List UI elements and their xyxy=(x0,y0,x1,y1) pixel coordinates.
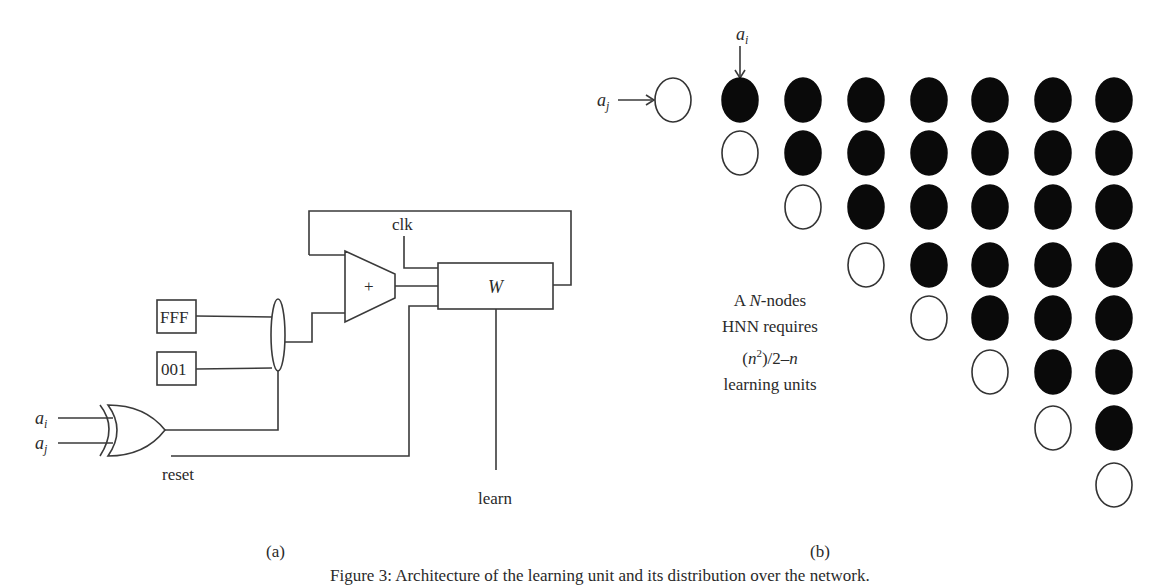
learning-unit-node xyxy=(1035,350,1071,394)
panel-a-sublabel: (a) xyxy=(266,542,285,562)
learning-unit-node xyxy=(972,296,1008,340)
neuron-node xyxy=(655,78,691,122)
const-fff-label: FFF xyxy=(160,308,188,327)
note-line-1: A N-nodes xyxy=(700,288,840,314)
learning-unit-node xyxy=(785,78,821,122)
neuron-node xyxy=(972,350,1008,394)
neuron-node xyxy=(1035,406,1071,450)
const-001-label: 001 xyxy=(161,360,187,379)
note-line-2: HNN requires xyxy=(700,314,840,340)
learning-unit-node xyxy=(1035,78,1071,122)
mux-to-adder-wire xyxy=(285,313,345,342)
clk-label: clk xyxy=(392,215,413,234)
fff-to-mux-wire xyxy=(196,316,272,317)
neuron-node xyxy=(848,243,884,287)
col-input-ai-label: ai xyxy=(736,24,748,47)
xor-input-ai-label: ai xyxy=(35,408,47,431)
learning-unit-node xyxy=(1035,243,1071,287)
panel-a-circuit: + W clk FFF 001 ai aj reset l xyxy=(35,211,571,508)
learning-unit-node xyxy=(911,131,947,175)
learning-unit-node xyxy=(972,243,1008,287)
learning-unit-node xyxy=(1035,131,1071,175)
learning-unit-node xyxy=(1035,185,1071,229)
note-line-4: learning units xyxy=(700,372,840,398)
learning-unit-node xyxy=(972,185,1008,229)
learn-label: learn xyxy=(478,489,512,508)
learning-unit-node xyxy=(848,131,884,175)
learning-unit-node xyxy=(1096,406,1132,450)
learning-unit-node xyxy=(1035,296,1071,340)
learning-unit-node xyxy=(1096,296,1132,340)
adder-plus-label: + xyxy=(364,277,374,296)
learning-unit-node xyxy=(1096,350,1132,394)
learning-unit-node xyxy=(911,185,947,229)
w-register-label: W xyxy=(488,277,505,297)
panel-b-sublabel: (b) xyxy=(810,542,830,562)
learning-unit-node xyxy=(1096,243,1132,287)
learning-unit-node xyxy=(911,78,947,122)
learning-unit-node xyxy=(1096,131,1132,175)
learning-unit-node xyxy=(1096,78,1132,122)
xor-input-aj-label: aj xyxy=(35,433,48,456)
learning-unit-node xyxy=(1096,185,1132,229)
learning-unit-node xyxy=(972,131,1008,175)
row-input-aj-label: aj xyxy=(597,90,610,113)
reset-wire xyxy=(171,306,438,456)
neuron-node xyxy=(722,131,758,175)
hnn-requirement-note: A N-nodes HNN requires (n2)/2–n learning… xyxy=(700,288,840,398)
clk-wire xyxy=(404,236,438,268)
learning-unit-node xyxy=(972,78,1008,122)
figure-canvas: + W clk FFF 001 ai aj reset l xyxy=(0,0,1163,588)
learning-unit-node xyxy=(722,78,758,122)
xor-gate-back-arc xyxy=(100,405,109,456)
neuron-node xyxy=(911,296,947,340)
learning-unit-node xyxy=(848,185,884,229)
neuron-node xyxy=(1096,463,1132,507)
xor-gate xyxy=(108,405,165,456)
learning-unit-node xyxy=(785,131,821,175)
learning-unit-node xyxy=(848,78,884,122)
note-line-3-formula: (n2)/2–n xyxy=(700,340,840,372)
001-to-mux-wire xyxy=(196,368,272,369)
mux-selector xyxy=(271,299,285,371)
reset-label: reset xyxy=(162,465,194,484)
neuron-node xyxy=(785,185,821,229)
figure-caption: Figure 3: Architecture of the learning u… xyxy=(330,566,870,586)
learning-unit-node xyxy=(911,243,947,287)
panel-b-grid: aj ai xyxy=(597,24,1132,507)
